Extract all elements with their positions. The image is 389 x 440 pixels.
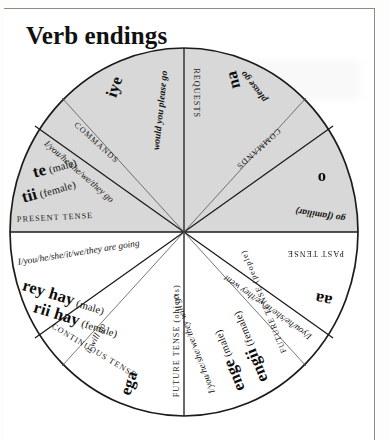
category-past-tense: PAST TENSE	[287, 248, 344, 257]
page-sheet: Verb endings	[0, 0, 389, 440]
category-future-objects: FUTURE TENSE (objects)	[173, 284, 182, 397]
ending-aa: aa	[314, 290, 334, 310]
verb-endings-wheel: iye COMMANDS would you please go na REQU…	[0, 0, 389, 440]
category-requests: REQUESTS	[192, 68, 201, 118]
ending-o: o	[318, 170, 326, 187]
